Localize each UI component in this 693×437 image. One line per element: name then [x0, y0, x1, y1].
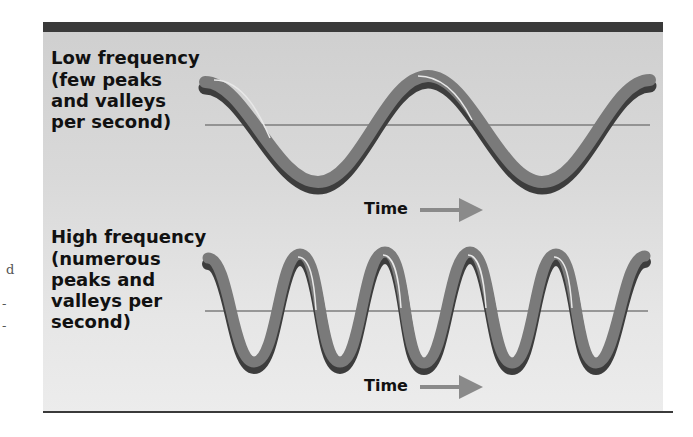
low-frequency-time-label: Time	[364, 199, 408, 218]
low-frequency-wave	[205, 76, 650, 188]
waves-graphic	[0, 0, 693, 437]
high-frequency-time-label: Time	[364, 376, 408, 395]
high-frequency-wave	[205, 252, 648, 369]
